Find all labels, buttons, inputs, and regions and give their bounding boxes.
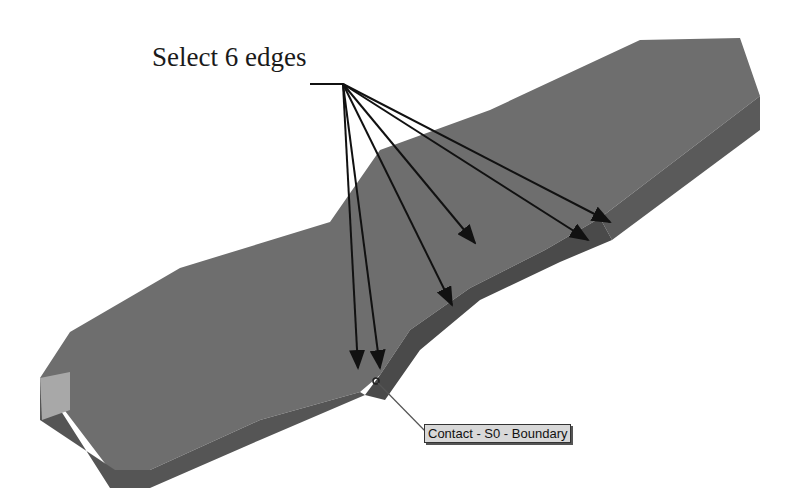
contact-boundary-tooltip: Contact - S0 - Boundary [424,424,571,443]
end-face [40,372,70,420]
model-viewport[interactable]: Select 6 edges Contact - S0 - Boundary [0,0,807,501]
part-model [0,0,807,501]
callout-label: Select 6 edges [152,44,306,71]
